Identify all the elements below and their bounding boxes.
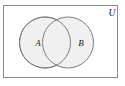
universal-set-label: U <box>109 8 117 18</box>
set-b-label: B <box>78 38 84 48</box>
set-b-circle <box>43 17 94 68</box>
venn-diagram-figure: A B U <box>0 0 125 86</box>
venn-diagram-canvas: A B U <box>0 0 125 86</box>
set-a-label: A <box>34 38 41 48</box>
